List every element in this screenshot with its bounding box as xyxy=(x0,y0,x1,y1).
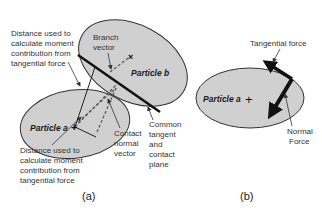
tangential-force-label: Tangential force xyxy=(250,39,307,48)
svg-text:calculate moment: calculate moment xyxy=(11,39,74,48)
svg-text:contact: contact xyxy=(149,150,176,159)
particle-a-center-marker: + xyxy=(71,121,77,133)
common-tangent-leader xyxy=(148,107,153,120)
panel-b-caption: (b) xyxy=(240,190,253,202)
contact-normal-label: Contact normal vector xyxy=(114,129,142,158)
svg-text:contribution from: contribution from xyxy=(20,166,80,175)
distance-label-top: Distance used to calculate moment contri… xyxy=(11,29,74,68)
panel-a-caption: (a) xyxy=(82,190,95,202)
normal-force-label: Normal Force xyxy=(287,127,313,146)
svg-text:Force: Force xyxy=(289,137,310,146)
distance-label-bottom: Distance used to calculate moment contri… xyxy=(20,146,83,185)
svg-text:Distance used to: Distance used to xyxy=(11,29,71,38)
svg-text:tangent: tangent xyxy=(149,130,176,139)
particle-b-center-marker: × xyxy=(128,52,133,62)
particle-b-label: Particle b xyxy=(131,68,169,78)
svg-text:calculate moment: calculate moment xyxy=(20,156,83,165)
svg-text:vector: vector xyxy=(114,149,136,158)
svg-text:tangential force: tangential force xyxy=(20,176,75,185)
branch-vector-label: Branch vector xyxy=(93,33,118,52)
svg-text:Branch: Branch xyxy=(93,33,118,42)
particle-a-label: Particle a xyxy=(30,123,68,133)
distance-top-leader xyxy=(68,62,80,86)
svg-text:Normal: Normal xyxy=(287,127,313,136)
common-tangent-label: Common tangent and contact plane xyxy=(149,120,181,169)
svg-text:Common: Common xyxy=(149,120,181,129)
particle-a-center-marker-b: + xyxy=(245,92,253,107)
svg-text:normal: normal xyxy=(114,139,139,148)
panel-b: Particle a + Tangential force Normal For… xyxy=(196,39,313,202)
svg-text:and: and xyxy=(149,140,162,149)
svg-text:vector: vector xyxy=(93,43,115,52)
particle-a-label-b: Particle a xyxy=(203,94,241,104)
svg-text:contribution from: contribution from xyxy=(11,49,71,58)
svg-text:tangential force: tangential force xyxy=(11,59,66,68)
panel-a: + × Particle a Particle b Distance used … xyxy=(11,2,202,202)
svg-text:Distance used to: Distance used to xyxy=(20,146,80,155)
particle-contact-diagram: + × Particle a Particle b Distance used … xyxy=(0,0,322,214)
svg-text:Contact: Contact xyxy=(114,129,142,138)
svg-text:plane: plane xyxy=(149,160,169,169)
tangential-force-leader xyxy=(273,49,280,62)
